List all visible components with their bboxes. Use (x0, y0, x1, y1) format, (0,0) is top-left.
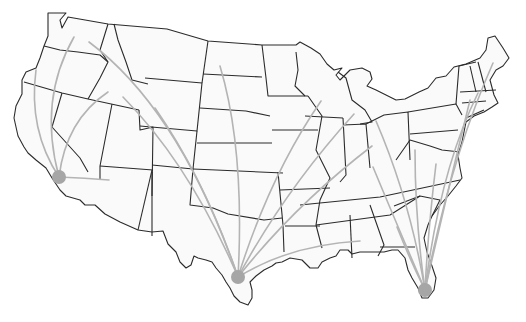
us-outline (14, 13, 509, 305)
us-map-svg (0, 0, 526, 322)
texas-hub (231, 270, 245, 284)
land-layer (14, 13, 509, 305)
florida-hub (418, 283, 432, 297)
us-flow-map (0, 0, 526, 322)
west-coast-hub (52, 170, 66, 184)
